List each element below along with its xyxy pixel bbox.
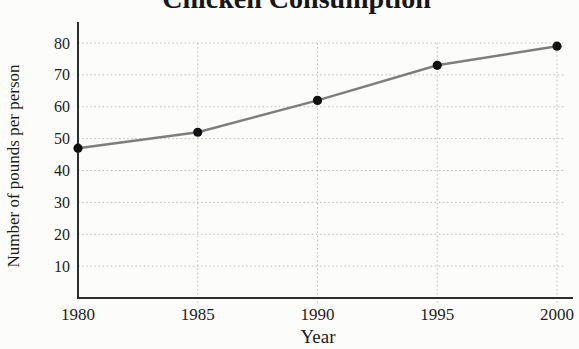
data-point	[73, 144, 82, 153]
y-tick-label: 30	[54, 194, 70, 211]
chart-container: Chicken Consumption Number of pounds per…	[0, 0, 579, 349]
x-axis-label: Year	[300, 326, 335, 348]
x-tick-label: 1980	[61, 305, 95, 324]
y-tick-label: 80	[54, 35, 70, 52]
data-point	[433, 61, 442, 70]
y-tick-label: 50	[54, 130, 70, 147]
y-tick-label: 20	[54, 226, 70, 243]
x-tick-label: 1995	[420, 305, 454, 324]
y-tick-label: 70	[54, 66, 70, 83]
x-tick-label: 2000	[540, 305, 574, 324]
x-tick-label: 1990	[301, 305, 335, 324]
y-tick-label: 40	[54, 162, 70, 179]
plot-area: 102030405060708019801985199019952000	[0, 0, 579, 349]
y-tick-label: 10	[54, 258, 70, 275]
x-tick-label: 1985	[181, 305, 215, 324]
data-point	[313, 96, 322, 105]
data-point	[193, 128, 202, 137]
y-tick-label: 60	[54, 98, 70, 115]
data-point	[552, 42, 561, 51]
